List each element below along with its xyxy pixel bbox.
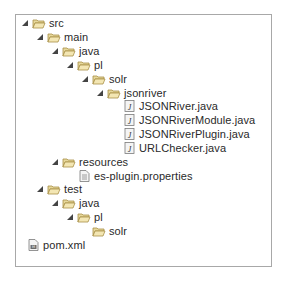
- tree-node-pom-xml[interactable]: M pom.xml: [20, 238, 85, 252]
- tree-node-label: src: [49, 16, 64, 30]
- tree-node-resources[interactable]: resources: [50, 155, 128, 169]
- tree-node-label: JSONRiver.java: [139, 99, 218, 113]
- java-file-icon: J: [122, 142, 136, 154]
- tree-node-test[interactable]: test: [35, 182, 82, 196]
- tree-node-label: solr: [109, 224, 127, 238]
- tree-node-jsonriver-java[interactable]: J JSONRiver.java: [110, 99, 218, 113]
- folder-open-icon: [107, 87, 121, 99]
- tree-node-label: pl: [94, 210, 103, 224]
- folder-open-icon: [47, 31, 61, 43]
- tree-node-pl[interactable]: pl: [65, 58, 103, 72]
- tree-node-test-solr[interactable]: solr: [80, 224, 127, 238]
- tree-node-jsonriver[interactable]: jsonriver: [95, 86, 166, 100]
- folder-open-icon: [92, 73, 106, 85]
- svg-text:J: J: [127, 131, 131, 140]
- tree-node-test-java[interactable]: java: [50, 196, 100, 210]
- tree-node-src[interactable]: src: [20, 16, 64, 30]
- folder-open-icon: [62, 45, 76, 57]
- tree-node-solr[interactable]: solr: [80, 72, 127, 86]
- folder-open-icon: [32, 17, 46, 29]
- xml-file-icon: M: [26, 239, 40, 251]
- expand-arrow-icon[interactable]: [65, 58, 75, 72]
- properties-file-icon: [77, 170, 91, 182]
- expand-arrow-icon[interactable]: [35, 30, 45, 44]
- java-file-icon: J: [122, 100, 136, 112]
- tree-node-label: jsonriver: [124, 86, 166, 100]
- folder-open-icon: [77, 211, 91, 223]
- expand-arrow-icon[interactable]: [50, 196, 60, 210]
- java-file-icon: J: [122, 128, 136, 140]
- tree-node-label: java: [79, 196, 100, 210]
- expand-arrow-icon[interactable]: [35, 182, 45, 196]
- tree-node-label: pl: [94, 58, 103, 72]
- tree-node-label: JSONRiverPlugin.java: [139, 127, 250, 141]
- tree-node-label: es-plugin.properties: [94, 169, 193, 183]
- tree-node-jsonrivermodule-java[interactable]: J JSONRiverModule.java: [110, 113, 255, 127]
- tree-node-urlchecker-java[interactable]: J URLChecker.java: [110, 141, 226, 155]
- tree-node-label: main: [64, 30, 88, 44]
- folder-open-icon: [62, 156, 76, 168]
- java-file-icon: J: [122, 114, 136, 126]
- expand-arrow-icon[interactable]: [50, 44, 60, 58]
- tree-node-es-plugin-properties[interactable]: es-plugin.properties: [65, 169, 193, 183]
- svg-text:J: J: [127, 103, 131, 112]
- tree-node-label: test: [64, 182, 82, 196]
- folder-open-icon: [77, 59, 91, 71]
- expand-arrow-icon[interactable]: [80, 72, 90, 86]
- folder-open-icon: [47, 183, 61, 195]
- project-explorer-tree: src main java pl solr jsonriver J JSONRi…: [15, 14, 272, 267]
- expand-arrow-icon[interactable]: [50, 155, 60, 169]
- svg-text:J: J: [127, 145, 131, 154]
- expand-arrow-icon[interactable]: [95, 86, 105, 100]
- tree-node-label: JSONRiverModule.java: [139, 113, 255, 127]
- tree-node-label: solr: [109, 72, 127, 86]
- expand-arrow-icon[interactable]: [65, 210, 75, 224]
- svg-text:M: M: [31, 245, 34, 249]
- svg-text:J: J: [127, 117, 131, 126]
- folder-open-icon: [92, 225, 106, 237]
- tree-node-main[interactable]: main: [35, 30, 88, 44]
- tree-node-jsonriverplugin-java[interactable]: J JSONRiverPlugin.java: [110, 127, 250, 141]
- tree-node-label: URLChecker.java: [139, 141, 226, 155]
- tree-node-label: pom.xml: [43, 238, 85, 252]
- expand-arrow-icon[interactable]: [20, 16, 30, 30]
- folder-open-icon: [62, 197, 76, 209]
- tree-node-label: java: [79, 44, 100, 58]
- tree-node-test-pl[interactable]: pl: [65, 210, 103, 224]
- tree-node-java[interactable]: java: [50, 44, 100, 58]
- tree-node-label: resources: [79, 155, 128, 169]
